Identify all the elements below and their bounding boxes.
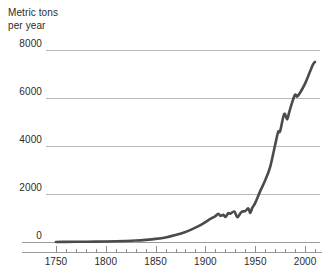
y-tick-label: 8000 (2, 38, 42, 49)
y-tick-label: 4000 (2, 134, 42, 145)
x-tick-label: 1850 (136, 256, 176, 267)
y-tick-label: 6000 (2, 86, 42, 97)
data-line-emissions (56, 62, 315, 242)
x-axis-tickmarks (57, 246, 316, 253)
emissions-chart: Metric tonsper year 80006000400020000 17… (0, 0, 329, 274)
x-tick-label: 1900 (185, 256, 225, 267)
x-tick-label: 1750 (36, 256, 76, 267)
y-tick-label: 2000 (2, 182, 42, 193)
x-tick-label: 2000 (285, 256, 325, 267)
plot-area (0, 0, 329, 274)
x-tick-label: 1950 (235, 256, 275, 267)
x-tick-label: 1800 (86, 256, 126, 267)
y-tick-label: 0 (2, 230, 42, 241)
